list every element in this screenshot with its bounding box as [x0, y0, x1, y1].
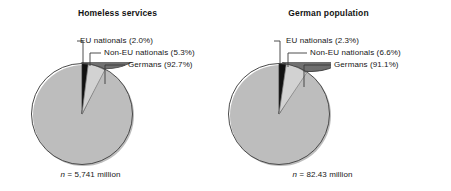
caption-n-symbol-right: n = — [292, 170, 304, 179]
slice-label-eu-nationals-left: EU nationals (2.0%) — [80, 36, 153, 45]
leader-line-germans-left — [105, 65, 125, 84]
slice-label-germans-right: Germans (91.1%) — [334, 60, 399, 69]
caption-homeless-services: n = 5,741 million — [0, 170, 203, 179]
pie-chart-figure: Homeless services — [0, 0, 451, 191]
leader-line-germans-right — [304, 65, 331, 87]
caption-n-value-right: 82.43 million — [306, 170, 352, 179]
slice-label-non-eu-nationals-left: Non-EU nationals (5.3%) — [104, 48, 195, 57]
chart-panel-homeless-services: Homeless services — [0, 0, 225, 191]
leader-line-eu-right — [274, 41, 280, 64]
caption-n-value-left: 5,741 million — [74, 170, 120, 179]
slice-label-eu-nationals-right: EU nationals (2.3%) — [286, 36, 359, 45]
leader-lines-right — [222, 0, 451, 191]
chart-panel-german-population: German population — [222, 0, 447, 191]
leader-lines-left — [0, 0, 225, 191]
slice-label-non-eu-nationals-right: Non-EU nationals (6.6%) — [310, 48, 401, 57]
leader-line-non-eu-left — [90, 53, 101, 66]
caption-german-population: n = 82.43 million — [210, 170, 435, 179]
slice-label-germans-left: Germans (92.7%) — [128, 60, 193, 69]
caption-n-symbol-left: n = — [60, 170, 72, 179]
